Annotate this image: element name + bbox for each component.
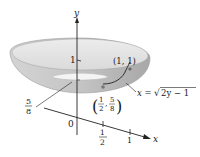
x-tick-one-label: 1 (127, 136, 132, 145)
depth-den: 8 (26, 107, 31, 116)
depth-num: 5 (26, 97, 31, 106)
point-mid-num1: 1 (99, 96, 103, 104)
x-tick-half-num: 1 (100, 128, 105, 137)
point-mid-close-paren: ) (116, 97, 122, 116)
equation-radicand: 2y − 1 (161, 88, 189, 98)
point-one-one-label: (1, 1) (113, 56, 136, 66)
point-mid-open-paren: ( (92, 97, 98, 116)
point-mid-den2: 8 (110, 105, 114, 113)
point-one-one (128, 67, 131, 70)
point-mid-num2: 5 (110, 96, 114, 104)
x-tick-half-den: 2 (100, 138, 105, 147)
x-axis-label: x (153, 134, 158, 144)
equation-lhs: x = (137, 88, 152, 98)
y-tick-1-label: 1 (70, 55, 76, 65)
surface-diagram: y 1 x 0 1 2 1 (1, 1) x = √ 2y − 1 ( 1 2 … (0, 0, 200, 157)
bowl-bottom-disc (52, 73, 108, 80)
y-axis-label: y (73, 8, 80, 18)
x-axis-arrow-icon (143, 134, 151, 139)
equation-sqrt-icon: √ (154, 88, 160, 98)
equation-leader (126, 83, 136, 92)
point-half-five-eighths (101, 85, 105, 89)
origin-label: 0 (68, 119, 74, 129)
point-mid-den1: 2 (99, 105, 103, 113)
point-mid-comma: , (105, 99, 108, 108)
